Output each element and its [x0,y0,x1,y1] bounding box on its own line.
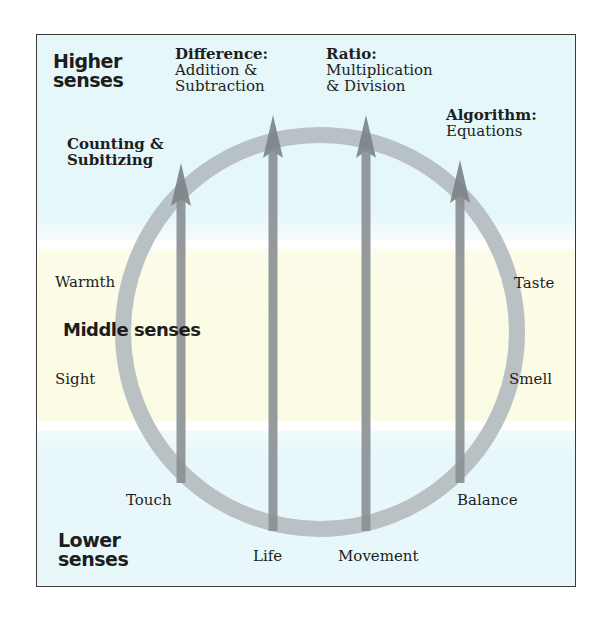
sense-life: Life [253,548,282,564]
arrow-life-to-difference [263,115,283,531]
sense-balance: Balance [457,492,518,508]
sense-warmth: Warmth [55,274,115,290]
senses-circle-graphic [0,0,607,617]
ratio-line3: & Division [326,78,433,94]
sense-touch: Touch [126,492,172,508]
difference-line2: Addition & [175,62,268,78]
operation-ratio: Ratio: Multiplication & Division [326,46,433,95]
sense-sight: Sight [55,371,95,387]
ratio-title: Ratio: [326,46,433,62]
operation-algorithm: Algorithm: Equations [446,107,537,139]
sense-smell: Smell [509,371,552,387]
counting-subtitle: Subitizing [67,152,164,168]
lower-senses-line2: senses [58,550,128,569]
higher-senses-title: Higher senses [53,52,123,90]
algorithm-line2: Equations [446,123,537,139]
lower-senses-title: Lower senses [58,531,128,569]
operation-difference: Difference: Addition & Subtraction [175,46,268,95]
counting-title: Counting & [67,136,164,152]
higher-senses-line2: senses [53,71,123,90]
sense-taste: Taste [514,275,554,291]
operation-counting: Counting & Subitizing [67,136,164,168]
middle-senses-title: Middle senses [63,320,200,339]
arrow-movement-to-ratio [356,115,376,531]
ratio-line2: Multiplication [326,62,433,78]
difference-line3: Subtraction [175,78,268,94]
algorithm-title: Algorithm: [446,107,537,123]
difference-title: Difference: [175,46,268,62]
sense-movement: Movement [338,548,419,564]
